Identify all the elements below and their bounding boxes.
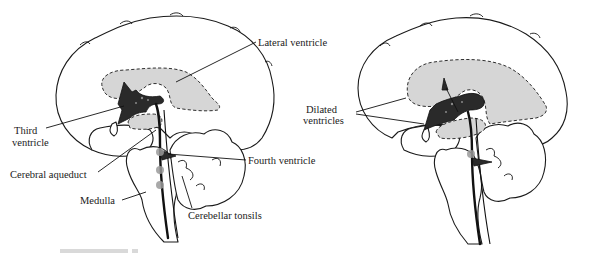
- caption-remnant: [60, 249, 128, 253]
- figure: Lateral ventricle Third ventricle Cerebr…: [0, 0, 592, 255]
- brainstem-outline: [127, 147, 179, 242]
- speckle: [141, 97, 143, 99]
- caption-remnant: [132, 249, 138, 253]
- panel-dilated-ventricles: Dilated ventricles: [303, 14, 567, 244]
- obstruction-dot: [467, 150, 475, 158]
- label-cerebral-aqueduct: Cerebral aqueduct: [10, 169, 87, 180]
- speckle: [451, 103, 453, 105]
- speckle: [445, 111, 447, 113]
- speckle: [147, 99, 149, 101]
- constriction-dot: [156, 181, 164, 189]
- label-fourth-ventricle: Fourth ventricle: [248, 155, 316, 166]
- label-third-ventricle-line2: ventricle: [12, 137, 49, 148]
- constriction-dot: [156, 148, 164, 156]
- label-cerebellar-tonsils: Cerebellar tonsils: [188, 210, 262, 221]
- label-dilated-ventricles-line1: Dilated: [306, 104, 338, 115]
- speckle: [461, 101, 463, 103]
- label-lateral-ventricle: Lateral ventricle: [258, 37, 327, 48]
- label-dilated-ventricles-line2: ventricles: [303, 115, 344, 126]
- constriction-dot: [156, 166, 164, 174]
- label-medulla: Medulla: [80, 195, 115, 206]
- label-third-ventricle-line1: Third: [14, 125, 38, 136]
- speckle: [135, 102, 137, 104]
- panel-normal-brain: Lateral ventricle Third ventricle Cerebr…: [10, 13, 327, 242]
